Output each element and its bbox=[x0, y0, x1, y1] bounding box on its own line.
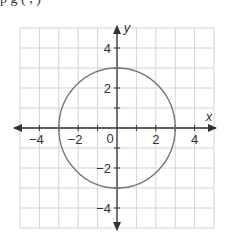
coordinate-plane: −4−202442−2−4xy bbox=[0, 0, 228, 248]
x-tick-label: 4 bbox=[191, 132, 198, 147]
y-axis-arrow-up-icon bbox=[113, 25, 121, 34]
x-axis-arrow-right-icon bbox=[208, 124, 217, 132]
x-tick-label: −2 bbox=[68, 132, 83, 147]
y-tick-label: −2 bbox=[96, 161, 111, 176]
x-axis-arrow-left-icon bbox=[13, 124, 22, 132]
y-tick-label: 4 bbox=[104, 41, 111, 56]
x-tick-label: 0 bbox=[106, 131, 113, 146]
axis-labels: −4−202442−2−4xy bbox=[29, 20, 213, 216]
y-axis-arrow-down-icon bbox=[113, 222, 121, 231]
y-tick-label: 2 bbox=[104, 81, 111, 96]
y-tick-label: −4 bbox=[96, 201, 111, 216]
x-axis-label: x bbox=[205, 109, 213, 124]
x-tick-label: −4 bbox=[29, 132, 44, 147]
x-tick-label: 2 bbox=[152, 132, 159, 147]
axes bbox=[13, 25, 217, 231]
